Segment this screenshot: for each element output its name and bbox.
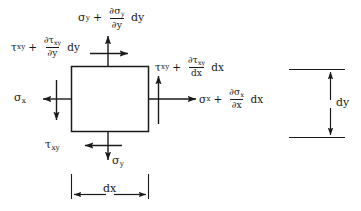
- right-shear-operator: +: [172, 62, 181, 73]
- bottom-normal-base-symbol: σ: [112, 154, 120, 167]
- right-normal-differential: dx: [250, 94, 263, 105]
- top-normal-differential: dy: [131, 12, 144, 23]
- right-normal-base-subscript: x: [206, 95, 210, 102]
- top-normal-denominator: ∂y: [110, 18, 124, 29]
- top-normal-base-symbol: σ: [78, 12, 86, 23]
- left-stress-arrows: [43, 80, 71, 120]
- top-normal-fraction: ∂σy ∂y: [107, 6, 126, 30]
- top-left-shear-denominator: ∂y: [46, 47, 60, 58]
- label-bottom-shear-stress: τxy: [45, 139, 60, 152]
- top-left-shear-base-subscript: xy: [17, 43, 25, 50]
- label-right-shear-stress: τxy + ∂τxy dx dx: [155, 56, 224, 78]
- stress-element-figure: σy + ∂σy ∂y dy τxy + ∂τxy ∂y dy τxy + ∂τ…: [0, 0, 361, 211]
- label-dx-dimension: dx: [103, 183, 116, 194]
- label-top-left-shear-stress: τxy + ∂τxy ∂y dy: [11, 36, 80, 58]
- right-shear-numerator: ∂τxy: [186, 56, 207, 67]
- top-normal-numerator: ∂σy: [107, 6, 126, 18]
- top-left-shear-numerator: ∂τxy: [42, 36, 63, 47]
- right-shear-differential: dx: [211, 62, 224, 73]
- right-normal-denominator: ∂x: [230, 99, 244, 110]
- top-left-shear-base-symbol: τ: [11, 42, 17, 53]
- right-shear-base-subscript: xy: [161, 63, 169, 70]
- right-normal-fraction: ∂σx ∂x: [227, 88, 246, 110]
- left-normal-base-symbol: σ: [14, 91, 22, 104]
- top-stress-arrows: [90, 36, 128, 66]
- label-left-normal-stress: σx: [14, 92, 26, 105]
- bottom-shear-base-symbol: τ: [45, 138, 51, 151]
- top-normal-operator: +: [93, 12, 102, 23]
- label-top-normal-stress: σy + ∂σy ∂y dy: [78, 6, 144, 30]
- top-normal-base-subscript: y: [86, 14, 90, 21]
- right-normal-numerator: ∂σx: [227, 88, 246, 99]
- right-shear-base-symbol: τ: [155, 62, 161, 73]
- bottom-shear-base-subscript: xy: [51, 144, 59, 151]
- right-shear-denominator: dx: [189, 67, 204, 78]
- top-left-shear-operator: +: [28, 42, 37, 53]
- right-normal-base-symbol: σ: [199, 94, 206, 105]
- bottom-normal-base-subscript: y: [120, 160, 124, 167]
- label-dy-dimension: dy: [336, 97, 349, 108]
- right-normal-operator: +: [214, 94, 223, 105]
- right-shear-fraction: ∂τxy dx: [186, 56, 207, 78]
- label-bottom-normal-stress: σy: [112, 155, 124, 168]
- figure-vector-layer: [0, 0, 361, 211]
- element-square: [72, 67, 149, 132]
- top-left-shear-differential: dy: [67, 42, 80, 53]
- label-right-normal-stress: σx + ∂σx ∂x dx: [199, 88, 263, 110]
- right-stress-arrows: [148, 76, 196, 124]
- top-left-shear-fraction: ∂τxy ∂y: [42, 36, 63, 58]
- left-normal-base-subscript: x: [22, 97, 26, 104]
